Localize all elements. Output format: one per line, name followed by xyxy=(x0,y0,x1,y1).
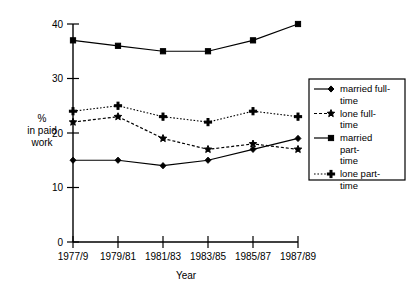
series-married-part-time xyxy=(70,21,300,53)
y-tick-label-0: 0 xyxy=(57,237,63,248)
data-point-0-5 xyxy=(295,135,301,141)
x-axis-title: Year xyxy=(176,270,197,281)
legend-label-2-0: married xyxy=(340,132,372,143)
legend-marker-2 xyxy=(328,135,333,140)
data-point-1-3 xyxy=(204,145,211,152)
y-tick-label-10: 10 xyxy=(52,182,64,193)
series-line-3 xyxy=(73,106,298,122)
series-line-2 xyxy=(73,24,298,51)
legend-label-3-0: lone part- xyxy=(340,168,380,179)
line-chart: 0 10 20 30 40 % in paid work 1977/9 1979… xyxy=(0,0,409,290)
data-point-1-0 xyxy=(69,118,76,125)
data-point-1-2 xyxy=(159,135,166,142)
data-point-2-0 xyxy=(70,38,75,43)
series-layer xyxy=(69,21,301,168)
series-lone-part-time xyxy=(69,102,301,126)
data-point-0-0 xyxy=(70,157,76,163)
legend-label-2-1: part- xyxy=(340,144,360,155)
data-point-2-1 xyxy=(115,43,120,48)
data-point-0-3 xyxy=(205,157,211,163)
data-point-2-3 xyxy=(205,49,210,54)
x-tick-label-3: 1983/85 xyxy=(190,251,227,262)
data-point-3-4 xyxy=(249,108,256,115)
series-line-0 xyxy=(73,138,298,165)
data-point-3-3 xyxy=(204,119,211,126)
data-point-2-5 xyxy=(295,21,300,26)
y-axis-title-line1: % xyxy=(38,113,47,124)
y-axis-title-line2: in paid xyxy=(27,125,56,136)
x-tick-label-4: 1985/87 xyxy=(235,251,272,262)
data-point-0-2 xyxy=(160,163,166,169)
x-tick-label-0: 1977/9 xyxy=(58,251,89,262)
data-point-2-2 xyxy=(160,49,165,54)
legend-label-3-1: time xyxy=(340,180,358,191)
chart-container: 0 10 20 30 40 % in paid work 1977/9 1979… xyxy=(0,0,409,290)
y-tick-label-40: 40 xyxy=(52,19,64,30)
data-point-2-4 xyxy=(250,38,255,43)
x-tick-label-1: 1979/81 xyxy=(100,251,137,262)
x-tick-label-5: 1987/89 xyxy=(280,251,317,262)
legend-label-2-2: time xyxy=(340,155,358,166)
legend-label-0-1: time xyxy=(340,95,358,106)
legend-label-1-0: lone full- xyxy=(340,108,376,119)
y-tick-label-30: 30 xyxy=(52,73,64,84)
legend-label-1-1: time xyxy=(340,119,358,130)
data-point-3-5 xyxy=(294,113,301,120)
series-line-1 xyxy=(73,117,298,150)
y-axis-title-line3: work xyxy=(30,137,53,148)
data-point-3-0 xyxy=(69,108,76,115)
data-point-1-1 xyxy=(114,113,121,120)
series-married-full-time xyxy=(70,135,301,168)
data-point-1-5 xyxy=(294,145,301,152)
data-point-3-1 xyxy=(114,102,121,109)
legend-label-0-0: married full- xyxy=(340,83,390,94)
x-tick-label-2: 1981/83 xyxy=(145,251,182,262)
data-point-1-4 xyxy=(249,140,256,147)
data-point-3-2 xyxy=(159,113,166,120)
data-point-0-1 xyxy=(115,157,121,163)
